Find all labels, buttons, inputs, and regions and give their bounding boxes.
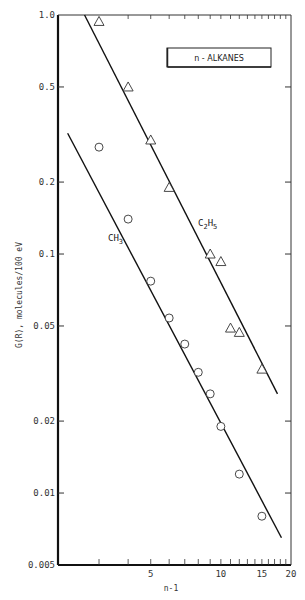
legend-text: n - ALKANES — [194, 54, 244, 63]
svg-text:C2H5: C2H5 — [198, 218, 217, 231]
circle-marker-icon — [124, 215, 132, 223]
fit-line-c2h5 — [85, 15, 278, 394]
circle-marker-icon — [147, 277, 155, 285]
triangle-marker-icon — [216, 257, 226, 266]
legend-box: n - ALKANES — [167, 48, 271, 67]
triangle-marker-icon — [123, 82, 133, 91]
circle-marker-icon — [194, 368, 202, 376]
circle-marker-icon — [181, 340, 189, 348]
x-axis-title: n-1 — [164, 584, 179, 593]
fit-line-ch3 — [68, 133, 282, 537]
y-tick-label: 1.0 — [39, 10, 55, 20]
y-tick-label: 0.005 — [28, 560, 55, 570]
x-tick-label: 20 — [286, 569, 297, 579]
series-label-c2h5: C2H5 — [198, 218, 217, 231]
y-tick-label: 0.1 — [39, 249, 55, 259]
axis-ticks — [58, 15, 291, 565]
y-tick-label: 0.01 — [33, 488, 55, 498]
circle-marker-icon — [165, 314, 173, 322]
data-points — [94, 16, 267, 520]
x-tick-label: 10 — [215, 569, 226, 579]
circle-marker-icon — [217, 422, 225, 430]
x-tick-label: 15 — [256, 569, 267, 579]
chart: 5101520 1.00.50.20.10.050.020.010.005 n … — [0, 0, 305, 600]
circle-marker-icon — [258, 512, 266, 520]
circle-marker-icon — [95, 143, 103, 151]
plot-frame — [58, 15, 291, 565]
y-tick-label: 0.5 — [39, 82, 55, 92]
x-tick-label: 5 — [148, 569, 153, 579]
circle-marker-icon — [235, 470, 243, 478]
triangle-marker-icon — [94, 16, 104, 25]
y-tick-label: 0.05 — [33, 321, 55, 331]
y-axis-tick-labels: 1.00.50.20.10.050.020.010.005 — [28, 10, 55, 570]
fit-lines — [68, 15, 282, 538]
y-tick-label: 0.02 — [33, 416, 55, 426]
circle-marker-icon — [206, 390, 214, 398]
y-tick-label: 0.2 — [39, 177, 55, 187]
x-axis-tick-labels: 5101520 — [148, 569, 296, 579]
y-axis-title: G(R), molecules/100 eV — [15, 242, 24, 348]
triangle-marker-icon — [226, 323, 236, 332]
